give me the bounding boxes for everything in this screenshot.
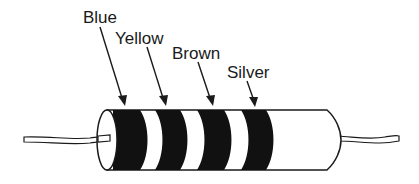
resistor-diagram	[0, 0, 419, 184]
band-blue	[113, 110, 148, 170]
label-blue: Blue	[83, 9, 117, 26]
label-silver: Silver	[227, 64, 270, 81]
arrow-brown	[198, 62, 215, 106]
left-lead-stub	[98, 135, 110, 142]
label-yellow: Yellow	[115, 30, 164, 47]
right-lead-wire	[338, 136, 399, 143]
arrow-yellow	[147, 47, 168, 106]
label-brown: Brown	[172, 45, 220, 62]
arrow-silver	[247, 81, 258, 107]
